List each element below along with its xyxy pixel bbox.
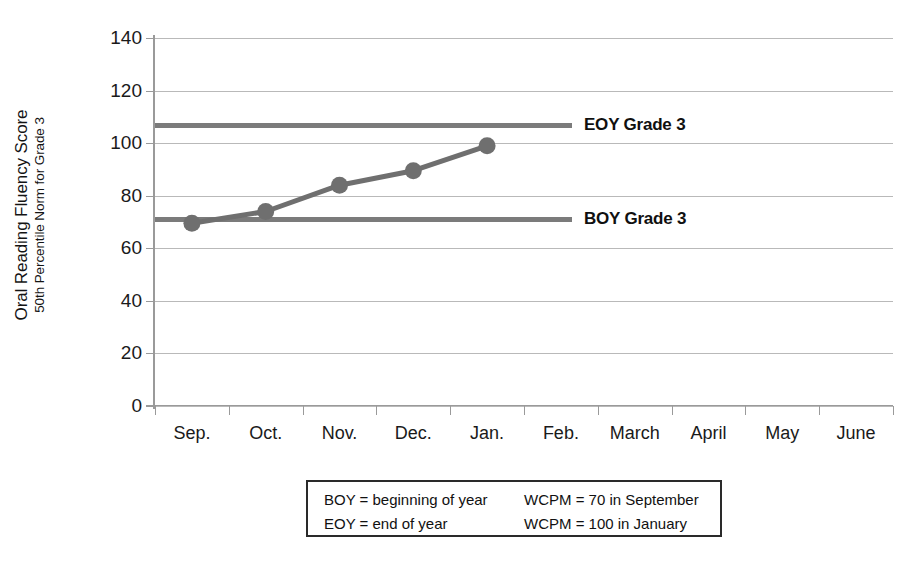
y-tick-mark bbox=[146, 143, 155, 144]
y-tick-mark bbox=[146, 91, 155, 92]
x-tick-mark bbox=[893, 406, 894, 415]
y-tick-label: 80 bbox=[121, 185, 142, 207]
x-tick-mark bbox=[376, 406, 377, 415]
legend-note-r0-c0: BOY = beginning of year bbox=[324, 489, 524, 511]
y-tick-label: 120 bbox=[110, 80, 142, 102]
plot-area: 020406080100120140 Sep.Oct.Nov.Dec.Jan.F… bbox=[155, 38, 893, 406]
y-axis-title-secondary: 50th Percentile Norm for Grade 3 bbox=[32, 117, 48, 313]
x-axis-label-sep: Sep. bbox=[173, 423, 210, 444]
y-tick-mark bbox=[146, 301, 155, 302]
x-tick-mark bbox=[303, 406, 304, 415]
x-tick-mark bbox=[155, 406, 156, 415]
x-tick-mark bbox=[598, 406, 599, 415]
x-tick-mark bbox=[229, 406, 230, 415]
y-tick-mark bbox=[146, 353, 155, 354]
x-axis-label-april: April bbox=[690, 423, 726, 444]
x-axis-label-may: May bbox=[765, 423, 799, 444]
legend-note-r1-c0: EOY = end of year bbox=[324, 513, 524, 535]
y-tick-mark bbox=[146, 248, 155, 249]
x-tick-mark bbox=[672, 406, 673, 415]
x-axis-label-oct: Oct. bbox=[249, 423, 282, 444]
data-point-marker bbox=[183, 215, 200, 232]
y-tick-label: 40 bbox=[121, 290, 142, 312]
x-tick-mark bbox=[450, 406, 451, 415]
data-point-marker bbox=[405, 162, 422, 179]
y-tick-label: 0 bbox=[131, 395, 142, 417]
y-tick-mark bbox=[146, 38, 155, 39]
x-axis-label-feb: Feb. bbox=[543, 423, 579, 444]
x-axis-label-nov: Nov. bbox=[322, 423, 358, 444]
oral-reading-fluency-chart: Oral Reading Fluency Score 50th Percenti… bbox=[0, 0, 920, 578]
x-axis-label-june: June bbox=[837, 423, 876, 444]
legend-note-r1-c1: WCPM = 100 in January bbox=[524, 513, 699, 535]
y-tick-label: 20 bbox=[121, 342, 142, 364]
y-tick-mark bbox=[146, 196, 155, 197]
y-axis-title: Oral Reading Fluency Score 50th Percenti… bbox=[0, 30, 60, 400]
y-tick-label: 140 bbox=[110, 27, 142, 49]
x-tick-mark bbox=[819, 406, 820, 415]
y-axis-title-main: Oral Reading Fluency Score bbox=[12, 110, 32, 321]
x-axis-label-dec: Dec. bbox=[395, 423, 432, 444]
data-series-layer bbox=[155, 38, 893, 406]
y-tick-label: 100 bbox=[110, 132, 142, 154]
y-tick-label: 60 bbox=[121, 237, 142, 259]
x-axis-label-jan: Jan. bbox=[470, 423, 504, 444]
x-axis-label-march: March bbox=[610, 423, 660, 444]
data-point-marker bbox=[257, 203, 274, 220]
legend-note-r0-c1: WCPM = 70 in September bbox=[524, 489, 699, 511]
x-tick-mark bbox=[524, 406, 525, 415]
y-tick-mark bbox=[146, 406, 155, 407]
data-point-marker bbox=[331, 177, 348, 194]
footnote-legend-box: BOY = beginning of yearWCPM = 70 in Sept… bbox=[306, 480, 722, 537]
data-point-marker bbox=[479, 137, 496, 154]
x-tick-mark bbox=[745, 406, 746, 415]
